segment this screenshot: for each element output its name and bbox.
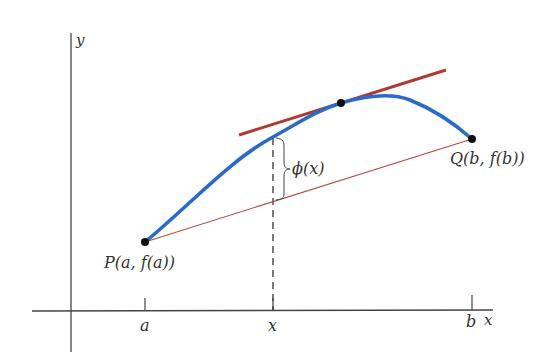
y-axis-label: y — [75, 31, 85, 49]
tick-label-x: x — [268, 316, 277, 335]
secant-line — [145, 139, 472, 242]
tick-label-a: a — [140, 316, 150, 335]
tangent-point — [337, 99, 345, 107]
tick-label-b: b — [466, 312, 476, 331]
phi-brace — [276, 138, 290, 200]
point-p — [141, 238, 149, 246]
point-q — [468, 135, 476, 143]
mvt-diagram: y x a x b ϕ(x) P(a, f(a)) Q(b, f(b)) — [0, 0, 558, 357]
point-q-label: Q(b, f(b)) — [450, 149, 525, 168]
x-axis — [32, 310, 493, 311]
point-p-label: P(a, f(a)) — [103, 253, 175, 272]
x-axis-label: x — [484, 311, 493, 329]
phi-label: ϕ(x) — [292, 159, 324, 178]
